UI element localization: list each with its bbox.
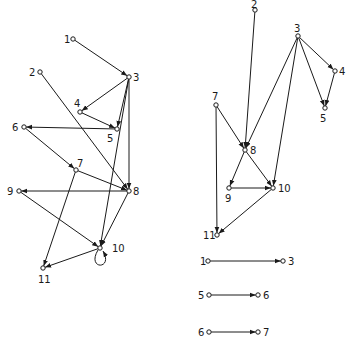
- right-edge-3-to-8: [246, 38, 297, 148]
- right-edge-7-to-11: [216, 107, 217, 233]
- right-node-label-5: 5: [320, 113, 326, 124]
- left-node-10: [98, 246, 102, 250]
- left-edge-7-to-11: [44, 172, 76, 266]
- right-node-7: [214, 103, 218, 107]
- left-node-label-11: 11: [38, 274, 51, 285]
- left-node-label-4: 4: [74, 98, 80, 109]
- right-edge-3-to-10: [273, 38, 297, 186]
- right-edge-7-to-8: [217, 107, 244, 148]
- right-node-3: [296, 34, 300, 38]
- left-edge-3-to-4: [82, 78, 127, 110]
- pair-label-7: 7: [263, 327, 269, 338]
- directed-graph-diagram: 1234567891011 23457891011 135667: [0, 0, 350, 343]
- pair-label-5: 5: [198, 290, 204, 301]
- left-node-8: [127, 189, 131, 193]
- pair-node-1: [206, 259, 210, 263]
- right-node-10: [271, 186, 275, 190]
- left-edge-1-to-3: [75, 40, 127, 76]
- left-node-label-7: 7: [77, 158, 83, 169]
- left-node-5: [115, 127, 119, 131]
- pair-node-6: [256, 293, 260, 297]
- left-edge-10-to-11: [45, 249, 98, 268]
- right-edge-4-to-5: [326, 73, 335, 106]
- left-node-label-6: 6: [12, 122, 18, 133]
- right-edge-8-to-9: [230, 152, 244, 186]
- left-node-11: [41, 266, 45, 270]
- left-edge-7-to-8: [78, 171, 127, 190]
- pair-node-5: [207, 293, 211, 297]
- left-node-9: [17, 189, 21, 193]
- right-node-8: [243, 148, 247, 152]
- left-edge-5-to-6: [26, 127, 115, 129]
- left-node-label-9: 9: [7, 186, 13, 197]
- left-edge-4-to-5: [82, 113, 115, 128]
- left-edge-2-to-8: [41, 74, 127, 189]
- left-graph: 1234567891011: [7, 34, 139, 285]
- left-node-label-5: 5: [107, 133, 113, 144]
- left-edge-3-to-5: [117, 79, 128, 127]
- pair-node-3: [281, 259, 285, 263]
- left-node-label-1: 1: [64, 34, 70, 45]
- pair-label-6: 6: [198, 327, 204, 338]
- pair-node-6: [207, 330, 211, 334]
- right-node-label-8: 8: [250, 145, 256, 156]
- right-graph: 23457891011: [203, 0, 345, 241]
- left-node-3: [127, 75, 131, 79]
- left-edge-3-to-10: [100, 79, 128, 246]
- right-node-5: [323, 106, 327, 110]
- left-node-6: [22, 125, 26, 129]
- left-node-label-3: 3: [133, 72, 139, 83]
- pair-node-7: [256, 330, 260, 334]
- left-node-1: [71, 37, 75, 41]
- right-node-label-7: 7: [212, 91, 218, 102]
- right-node-label-4: 4: [339, 66, 345, 77]
- isolated-edge-pairs: 135667: [198, 256, 294, 338]
- right-node-label-2: 2: [251, 0, 257, 10]
- right-node-label-11: 11: [203, 230, 216, 241]
- right-node-9: [227, 186, 231, 190]
- pair-label-6: 6: [263, 290, 269, 301]
- pair-label-1: 1: [200, 256, 206, 267]
- right-edge-8-to-10: [246, 152, 271, 186]
- right-node-label-3: 3: [294, 23, 300, 34]
- pair-label-3: 3: [288, 256, 294, 267]
- left-edge-6-to-7: [26, 128, 75, 168]
- right-edge-2-to-8: [245, 12, 255, 148]
- left-self-loop-10: [95, 250, 106, 265]
- left-node-label-10: 10: [112, 243, 125, 254]
- right-node-4: [333, 69, 337, 73]
- left-node-label-8: 8: [133, 186, 139, 197]
- right-node-label-9: 9: [225, 193, 231, 204]
- left-node-2: [38, 70, 42, 74]
- right-node-label-10: 10: [278, 183, 291, 194]
- left-node-4: [78, 110, 82, 114]
- left-node-label-2: 2: [29, 67, 35, 78]
